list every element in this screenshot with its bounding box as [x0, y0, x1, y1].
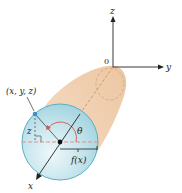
solid-of-revolution-diagram: z y 0 x (x, y, z) z θ f(x) — [0, 0, 182, 193]
y-axis-arrowhead — [158, 65, 164, 70]
z-axis-arrowhead — [111, 16, 116, 22]
point-leader-line — [27, 97, 34, 111]
height-z-label: z — [26, 126, 32, 136]
z-axis-label: z — [109, 6, 115, 16]
point-label: (x, y, z) — [6, 86, 36, 96]
fx-label: f(x) — [70, 155, 87, 165]
x-axis-label: x — [28, 181, 33, 191]
theta-label: θ — [77, 126, 83, 136]
center-point — [58, 140, 63, 145]
y-axis-label: y — [165, 62, 172, 72]
point-marker — [33, 112, 38, 117]
origin-label: 0 — [104, 57, 109, 66]
